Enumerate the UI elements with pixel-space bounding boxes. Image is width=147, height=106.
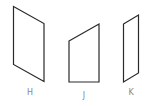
shape-h (14, 7, 45, 82)
shape-h-label: H (27, 88, 33, 97)
shape-k-label: K (128, 88, 134, 97)
shape-j (69, 24, 99, 82)
quadrilaterals-diagram: H J K (0, 0, 147, 106)
shape-k-group: K (124, 15, 139, 97)
shape-j-group: J (69, 24, 99, 100)
shape-k (124, 15, 139, 82)
shape-j-label: J (82, 91, 85, 100)
shape-h-group: H (14, 7, 45, 98)
